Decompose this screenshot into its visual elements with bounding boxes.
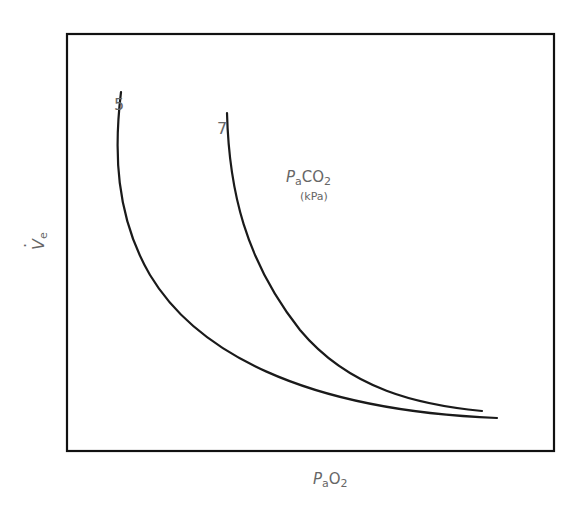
y-axis-label: Ve · xyxy=(16,232,50,250)
legend-sub-2: 2 xyxy=(324,175,331,188)
y-sub-e: e xyxy=(37,232,50,239)
x-sub-2: 2 xyxy=(341,477,348,490)
curve-label-7: 7 xyxy=(217,119,227,138)
ventilation-chart: 5 7 PaCO2 (kPa) PaO2 Ve · xyxy=(0,0,578,506)
curve-paco2-7 xyxy=(227,113,482,411)
legend-units: (kPa) xyxy=(300,190,328,203)
legend-title: PaCO2 (kPa) xyxy=(286,168,331,203)
x-o: O xyxy=(329,470,341,488)
x-sub-a: a xyxy=(322,477,329,490)
legend-co: CO xyxy=(302,168,324,186)
legend-sub-a: a xyxy=(295,175,302,188)
y-dot: · xyxy=(16,243,35,248)
curve-label-5: 5 xyxy=(114,95,124,114)
curve-paco2-5 xyxy=(118,92,497,418)
x-axis-label: PaO2 xyxy=(313,470,348,490)
svg-text:PaCO2: PaCO2 xyxy=(286,168,331,188)
svg-text:PaO2: PaO2 xyxy=(313,470,348,490)
